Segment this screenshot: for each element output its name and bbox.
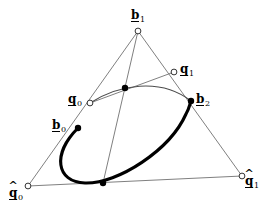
label-q0-subscript: 0 [77, 100, 82, 108]
label-b2: b2 [196, 90, 210, 108]
label-qhat0-subscript: 0 [18, 194, 23, 202]
triangle-bottom-edge [28, 176, 242, 186]
marker-b0 [75, 125, 81, 131]
label-q1-subscript: 1 [189, 70, 194, 78]
label-b2-subscript: 2 [205, 100, 210, 108]
label-qhat0-hat-accent: ^ [9, 180, 18, 191]
triangle-left-edge [28, 31, 138, 186]
label-qhat1: q^1 [245, 172, 259, 190]
label-b1-subscript: 1 [140, 16, 145, 24]
label-qhat1-base: q^ [245, 175, 253, 188]
label-b2-base: b [196, 93, 204, 106]
point-markers [25, 28, 245, 189]
label-qhat1-hat-accent: ^ [245, 168, 254, 179]
label-q1-base: q [180, 63, 188, 76]
diagram-canvas [0, 0, 275, 214]
label-qhat1-subscript: 1 [254, 182, 259, 190]
thin-conic-arc [90, 86, 191, 103]
label-qhat0-base: q^ [9, 187, 17, 200]
marker-midpoint-top [122, 85, 128, 91]
label-b0-base: b [52, 119, 60, 132]
label-qhat0: q^0 [9, 184, 23, 202]
label-b1-base: b [131, 9, 139, 22]
cevian-line [103, 31, 138, 183]
label-b0: b0 [52, 116, 66, 134]
marker-b1 [135, 28, 141, 34]
label-q1: q1 [180, 60, 194, 78]
label-q0-base: q [68, 93, 76, 106]
label-q0: q0 [68, 90, 82, 108]
label-b0-subscript: 0 [61, 126, 66, 134]
conic-diagram: b1q1b2q0b0q^0q^1 [0, 0, 275, 214]
marker-midpoint-bottom [100, 180, 106, 186]
marker-b2 [188, 98, 194, 104]
marker-q1 [171, 69, 177, 75]
thick-ellipse-arc [61, 101, 191, 183]
label-b1: b1 [131, 6, 145, 24]
marker-q0 [87, 100, 93, 106]
marker-qhat0 [25, 183, 31, 189]
